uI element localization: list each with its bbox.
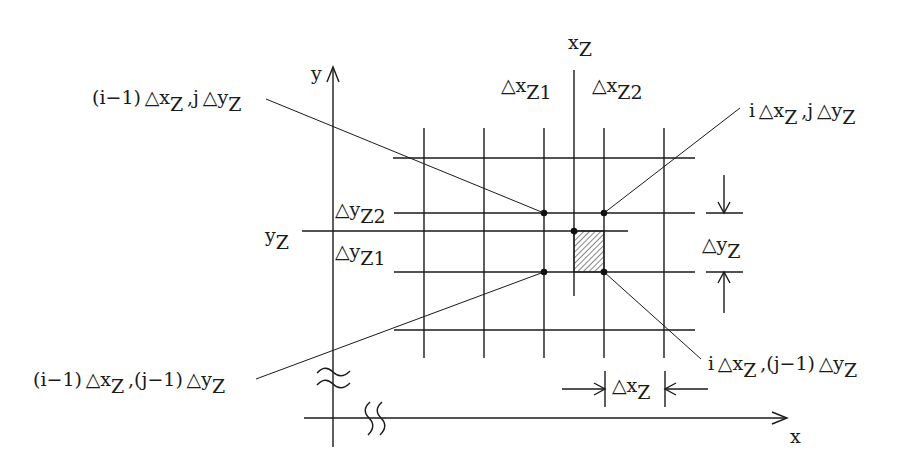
label-subscript: Z [842, 106, 855, 128]
label-text: ,(j−1) △y [124, 368, 212, 390]
leader-bottom-left [256, 272, 544, 379]
xz-label: xZ [568, 31, 592, 60]
label-text: ,j △y [797, 99, 842, 121]
dx-z-label: △xZ [612, 374, 651, 403]
label-subscript: Z [784, 106, 797, 128]
label-subscript: Z [170, 93, 183, 115]
label-text: i △x [749, 99, 784, 121]
y-axis-label: y [310, 62, 322, 84]
dx-z1-label: △xZ1 [501, 74, 552, 103]
node-label-top-right: i △xZ ,j △yZ [749, 99, 855, 128]
node-label-bottom-right: i △xZ ,(j−1) △yZ [708, 352, 857, 381]
label-text: (i−1) △x [33, 368, 111, 390]
dx-z2-label: △xZ2 [592, 74, 643, 103]
grid [393, 128, 695, 358]
node-label-top-left: (i−1) △xZ ,j △yZ [92, 86, 241, 115]
label-text: i △x [708, 352, 743, 374]
leader-lines [256, 99, 740, 379]
label-subscript: Z [743, 359, 756, 381]
label-text: ,j △y [183, 86, 228, 108]
dy-z1-label: △yZ1 [335, 240, 386, 269]
label-subscript: Z [111, 375, 124, 397]
x-axis [304, 412, 787, 424]
label-subscript: Z [844, 359, 857, 381]
label-text: (i−1) △x [92, 86, 170, 108]
x-axis-label: x [790, 425, 801, 447]
label-text: ,(j−1) △y [756, 352, 844, 374]
dy-z-label: △yZ [702, 233, 741, 262]
hatched-cell [574, 231, 604, 272]
leader-top-left [266, 99, 544, 213]
node-center [571, 228, 578, 235]
node-label-bottom-left: (i−1) △xZ ,(j−1) △yZ [33, 368, 225, 397]
label-subscript: Z [212, 375, 225, 397]
leader-bottom-right [604, 272, 701, 359]
dy-z2-label: △yZ2 [335, 198, 386, 227]
leader-top-right [604, 108, 740, 213]
yz-label: yZ [264, 224, 289, 253]
grid-diagram: y x xZ yZ △xZ1 △xZ2 △yZ2 △yZ1 △yZ △xZ (i… [0, 0, 911, 472]
label-subscript: Z [228, 93, 241, 115]
